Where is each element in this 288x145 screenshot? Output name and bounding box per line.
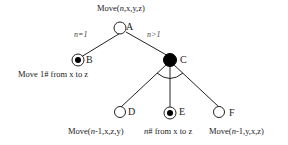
edge-c-f <box>173 64 219 107</box>
node-f-caption: Move(n-1,y,x,z) <box>209 127 264 136</box>
node-b-label: B <box>86 55 93 65</box>
node-f-circle <box>214 107 225 118</box>
node-b-caption: Move 1# from x to z <box>18 70 88 79</box>
edge-c-d <box>121 64 167 107</box>
node-e-dot <box>167 110 173 116</box>
node-a-circle <box>114 22 126 34</box>
node-d-caption: Move(n-1,x,z,y) <box>68 127 123 136</box>
node-e-label: E <box>179 107 185 117</box>
node-e-caption: n# from x to z <box>144 127 192 136</box>
node-f-label: F <box>229 108 235 118</box>
node-c-label: C <box>180 55 187 65</box>
edge-a-b-label: n=1 <box>74 31 87 39</box>
node-d-label: D <box>128 107 135 117</box>
node-d-circle <box>115 107 126 118</box>
node-a-label: A <box>126 22 133 32</box>
node-a-caption: Move(n,x,y,z) <box>97 4 145 13</box>
edge-a-c-label: n>1 <box>147 31 160 39</box>
node-c-circle <box>164 54 177 67</box>
node-b-dot <box>75 57 81 63</box>
